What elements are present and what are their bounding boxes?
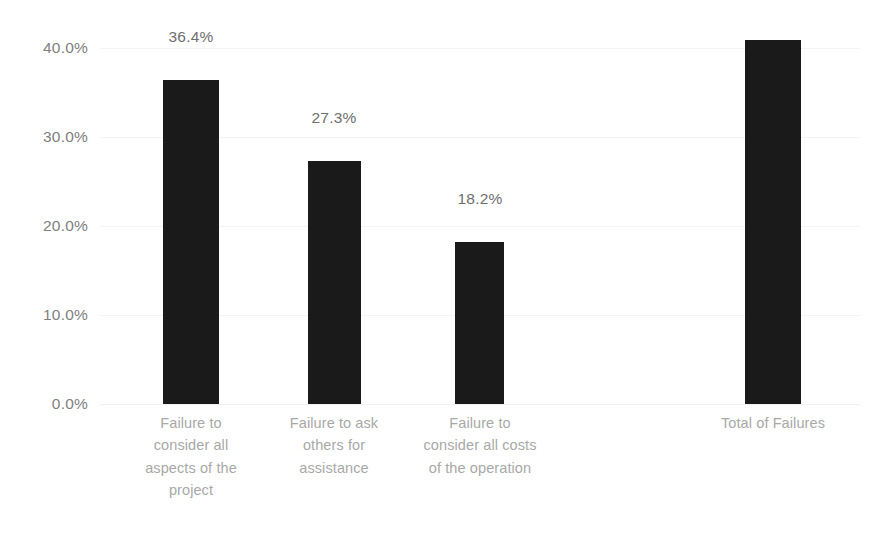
x-axis-label-bar-3-line-1: Failure to xyxy=(385,412,575,434)
bar-failure-consider-all-aspects[interactable] xyxy=(163,80,219,404)
y-axis-tick-10: 10.0% xyxy=(43,306,88,324)
x-axis-label-bar-1-line-4: project xyxy=(104,479,279,501)
bar-total-of-failures[interactable] xyxy=(745,40,801,404)
gridline-0-baseline: 0.0% xyxy=(100,404,860,405)
bar-chart: 40.0% 30.0% 20.0% 10.0% 0.0% 36.4% 27.3%… xyxy=(0,0,884,543)
y-axis-tick-40: 40.0% xyxy=(43,39,88,57)
data-label-bar-1: 36.4% xyxy=(169,28,214,46)
data-label-bar-2: 27.3% xyxy=(312,109,357,127)
x-axis-label-bar-3: Failure to consider all costs of the ope… xyxy=(385,412,575,479)
bar-failure-consider-all-costs[interactable] xyxy=(455,242,504,404)
x-axis-label-bar-4: Total of Failures xyxy=(673,412,873,434)
bar-failure-ask-others[interactable] xyxy=(308,161,361,404)
x-axis-label-bar-4-line-1: Total of Failures xyxy=(673,412,873,434)
x-axis-label-bar-3-line-2: consider all costs xyxy=(385,434,575,456)
plot-area: 40.0% 30.0% 20.0% 10.0% 0.0% 36.4% 27.3%… xyxy=(100,48,860,404)
y-axis-tick-20: 20.0% xyxy=(43,217,88,235)
data-label-bar-3: 18.2% xyxy=(458,190,503,208)
x-axis-label-bar-3-line-3: of the operation xyxy=(385,457,575,479)
y-axis-tick-30: 30.0% xyxy=(43,128,88,146)
y-axis-tick-0: 0.0% xyxy=(52,395,88,413)
